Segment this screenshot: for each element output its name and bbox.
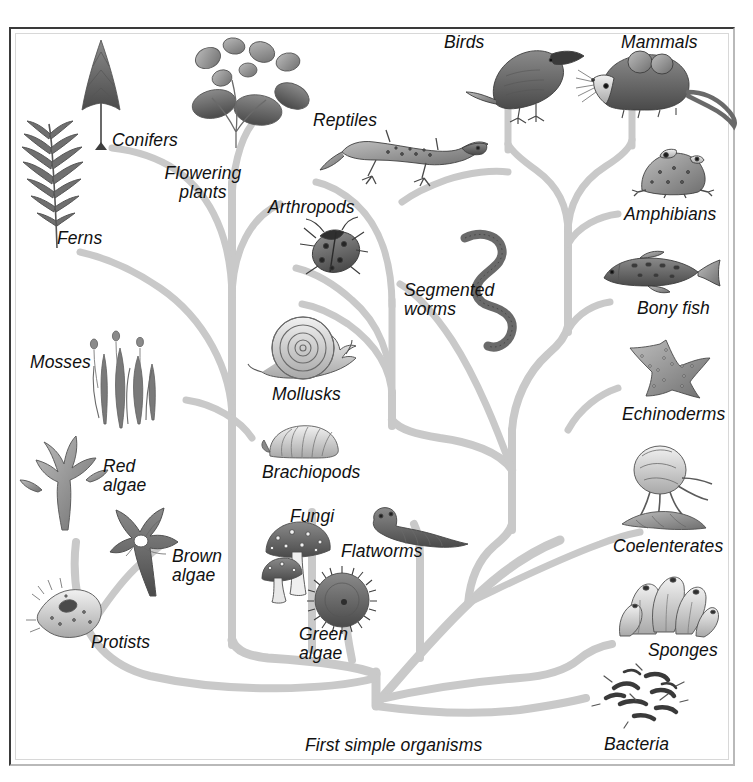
snail-illustration [248,317,356,379]
frog-illustration [632,149,714,198]
label-reptiles: Reptiles [313,111,377,130]
sponge-illustration [619,577,718,637]
bacteria-illustration [592,664,688,728]
starfish-illustration [630,340,710,398]
label-fungi: Fungi [290,507,334,526]
label-mammals: Mammals [621,33,698,52]
bird-illustration [466,51,584,124]
label-flowering-plants: Flowering plants [148,164,258,202]
label-sponges: Sponges [648,641,718,660]
label-mollusks: Mollusks [272,385,341,404]
flowering-plant-illustration [190,36,314,148]
label-bony-fish: Bony fish [637,299,710,318]
diagram-page: Conifers Flowering plants Ferns Mosses R… [0,0,753,782]
label-protists: Protists [91,633,150,652]
fish-illustration [604,251,720,293]
brown-alga-illustration [110,508,178,596]
red-alga-illustration [20,436,108,530]
label-brachiopods: Brachiopods [262,463,360,482]
label-bacteria: Bacteria [604,735,669,754]
label-brown-algae: Brown algae [172,547,222,585]
mouse-illustration [576,51,735,126]
label-flatworms: Flatworms [341,542,423,561]
label-birds: Birds [444,33,484,52]
label-amphibians: Amphibians [624,205,716,224]
label-red-algae: Red algae [103,457,146,495]
label-arthropods: Arthropods [268,198,355,217]
label-mosses: Mosses [30,353,91,372]
label-segmented-worms: Segmented worms [404,281,494,319]
jellyfish-illustration [622,446,712,530]
moss-illustration [90,331,155,428]
ladybug-illustration [300,217,368,278]
label-echinoderms: Echinoderms [622,405,725,424]
label-first-simple-organisms: First simple organisms [305,736,482,755]
lizard-illustration [320,130,488,186]
tree-canvas: Conifers Flowering plants Ferns Mosses R… [0,0,753,782]
label-conifers: Conifers [112,131,178,150]
label-ferns: Ferns [57,229,102,248]
protist-illustration [26,578,101,637]
label-coelenterates: Coelenterates [613,537,723,556]
brachiopod-illustration [262,426,338,458]
label-green-algae: Green algae [299,625,348,663]
